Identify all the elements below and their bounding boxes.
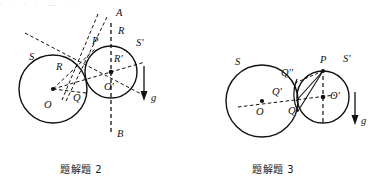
label-R-outer: R bbox=[117, 25, 125, 36]
figure-root: · · · · — · · bbox=[0, 0, 372, 182]
center-O-prime bbox=[321, 95, 326, 100]
center-O bbox=[51, 87, 55, 91]
construction-line-upper-1 bbox=[25, 33, 143, 95]
label-R-inner: R bbox=[55, 61, 63, 72]
label-O-prime: O' bbox=[330, 90, 341, 101]
label-O: O bbox=[44, 99, 52, 110]
center-O bbox=[260, 99, 264, 103]
label-A: A bbox=[115, 7, 123, 18]
label-Q-prime: Q' bbox=[272, 86, 283, 97]
centerline-O-Oprime bbox=[238, 95, 335, 107]
label-g: g bbox=[361, 115, 366, 126]
label-Q: Q bbox=[288, 105, 296, 116]
label-S-prime: S' bbox=[343, 53, 351, 64]
label-S: S bbox=[29, 51, 35, 62]
label-P: P bbox=[319, 54, 327, 65]
figure-3-caption: 题解题 3 bbox=[252, 161, 294, 176]
label-S: S bbox=[235, 56, 241, 67]
figure-3-group: S S' P Q'' Q' Q O O' g bbox=[226, 53, 366, 137]
label-g: g bbox=[151, 92, 156, 103]
label-Q-dprime: Q'' bbox=[281, 67, 294, 78]
figure-2-group: A B S S' P R R R' O O' Q g bbox=[19, 7, 156, 139]
figure-2-canvas: A B S S' P R R R' O O' Q g bbox=[0, 0, 372, 182]
point-P bbox=[321, 69, 325, 73]
center-O-prime bbox=[109, 70, 114, 75]
figure-2-caption: 题解题 2 bbox=[60, 161, 102, 176]
label-B: B bbox=[117, 128, 124, 139]
label-S-prime: S' bbox=[136, 37, 144, 48]
label-P: P bbox=[91, 35, 99, 46]
segment-O-Q bbox=[53, 89, 86, 93]
label-O-prime: O' bbox=[104, 81, 115, 92]
gravity-arrow-head bbox=[352, 115, 359, 125]
chord-P-Q bbox=[298, 71, 323, 111]
label-R-prime: R' bbox=[113, 53, 123, 64]
gravity-arrow-head bbox=[141, 91, 148, 101]
label-Q: Q bbox=[73, 92, 81, 103]
label-O: O bbox=[256, 106, 264, 117]
construction-line-upper-2 bbox=[62, 14, 98, 100]
